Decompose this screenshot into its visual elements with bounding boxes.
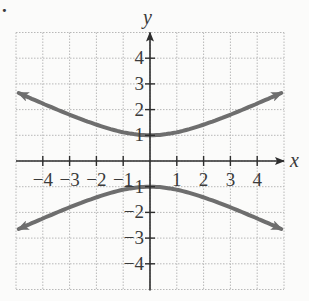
- x-tick-label: 2: [199, 169, 209, 190]
- x-tick-label: 4: [252, 169, 262, 190]
- problem-marker: .: [2, 0, 7, 16]
- y-tick-label: 3: [135, 73, 145, 94]
- y-tick-label: 1: [135, 124, 145, 145]
- x-tick-label: −2: [86, 169, 106, 190]
- axes: [16, 33, 284, 291]
- y-tick-label: −4: [124, 253, 145, 274]
- y-tick-label: 4: [135, 47, 145, 68]
- y-tick-label: −3: [124, 227, 144, 248]
- x-tick-label: −4: [33, 169, 54, 190]
- y-tick-label: 2: [135, 99, 145, 120]
- chart-canvas: −4−3−2−11234−4−3−2−11234 . x y: [0, 0, 309, 301]
- y-axis-label: y: [141, 6, 152, 29]
- hyperbola-graph: −4−3−2−11234−4−3−2−11234 . x y: [0, 0, 309, 301]
- y-tick-label: −2: [124, 201, 144, 222]
- x-tick-label: 3: [226, 169, 236, 190]
- x-axis-label: x: [289, 149, 299, 171]
- y-tick-label: −1: [124, 176, 144, 197]
- upper-branch-curve: [19, 93, 150, 135]
- upper-branch-curve: [150, 93, 281, 135]
- lower-branch-curve: [150, 187, 281, 229]
- x-tick-label: −3: [59, 169, 79, 190]
- x-tick-label: 1: [172, 169, 182, 190]
